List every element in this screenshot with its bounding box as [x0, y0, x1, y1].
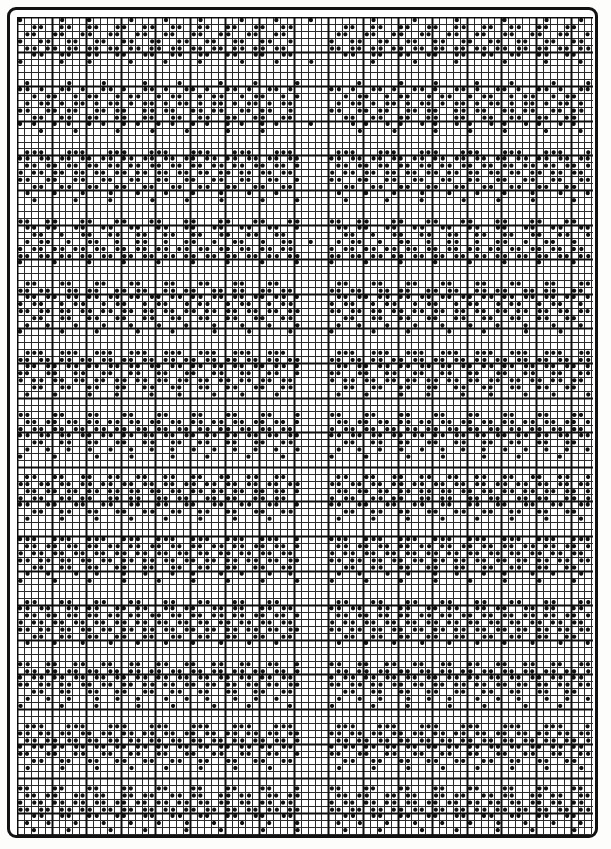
pattern-grid-canvas — [17, 17, 593, 838]
chart-page: Filet / Cross-Stitch Pattern Chart — [0, 0, 611, 849]
chart-frame — [7, 7, 598, 838]
